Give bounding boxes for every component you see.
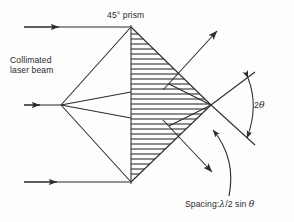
converging-ray-fan xyxy=(61,27,131,182)
label-beam-line1: Collimated xyxy=(10,55,52,65)
label-grating-spacing: Spacing:λ/2 sin θ xyxy=(185,199,254,209)
spacing-leader-line xyxy=(213,130,231,196)
label-45-degree-prism: 45° prism xyxy=(107,10,144,20)
label-two-theta: 2θ xyxy=(254,100,265,110)
output-ray-upper xyxy=(163,31,217,90)
prism-upper-face xyxy=(131,27,211,105)
spacing-mid: /2 sin xyxy=(225,199,249,209)
angle-arc xyxy=(247,78,253,138)
figure-root: 45° prism Collimatedlaser beam 2θ Spacin… xyxy=(0,0,294,222)
output-rays xyxy=(163,31,217,172)
ray-diagram-svg xyxy=(0,0,294,222)
spacing-prefix: Spacing: xyxy=(185,199,219,209)
label-collimated-laser-beam: Collimatedlaser beam xyxy=(10,55,54,75)
label-beam-line2: laser beam xyxy=(10,65,54,75)
theta-symbol: θ xyxy=(259,99,265,110)
angle-indicator xyxy=(211,72,255,145)
angle-ray-lower xyxy=(211,105,255,145)
angle-ray-upper xyxy=(211,72,255,105)
theta-symbol-spacing: θ xyxy=(249,198,255,209)
fan-ray-upper xyxy=(61,27,131,105)
output-ray-lower-tail xyxy=(169,105,211,126)
hatched-grating-region xyxy=(128,34,214,174)
